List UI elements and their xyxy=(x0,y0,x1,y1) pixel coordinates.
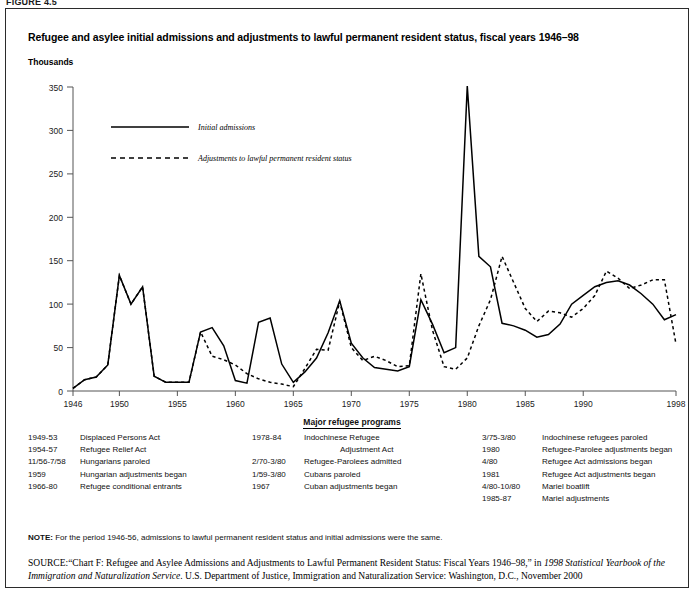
x-tick-1980: 1980 xyxy=(458,399,477,409)
program-period xyxy=(252,444,304,456)
series-line-adjustments xyxy=(73,256,676,388)
source-text-tail: . U.S. Department of Justice, Immigratio… xyxy=(180,571,582,581)
program-period: 2/70-3/80 xyxy=(252,456,304,468)
chart-note: NOTE: For the period 1946-56, admissions… xyxy=(28,533,442,542)
refugee-admissions-line-chart: 350 300 250 200 150 100 50 0 19461950195… xyxy=(26,71,686,411)
major-refugee-programs-table: Major refugee programs 1949-53Displaced … xyxy=(28,417,676,505)
chart-legend: Initial admissions Adjustments to lawful… xyxy=(111,123,352,163)
x-tick-1960: 1960 xyxy=(226,399,245,409)
program-period: 1981 xyxy=(482,469,542,481)
program-label: Indochinese Refugee xyxy=(304,432,482,444)
y-tick-200: 200 xyxy=(49,213,63,223)
program-period: 4/80 xyxy=(482,456,542,468)
program-period: 1978-84 xyxy=(252,432,304,444)
program-period: 11/56-7/58 xyxy=(28,456,80,468)
program-period: 1954-57 xyxy=(28,444,80,456)
x-tick-1946: 1946 xyxy=(64,399,83,409)
source-label: SOURCE: xyxy=(28,558,68,568)
note-label: NOTE: xyxy=(28,533,53,542)
program-label: Refugee Act adjustments began xyxy=(542,469,676,481)
program-period: 1959 xyxy=(28,469,80,481)
program-label: Adjustment Act xyxy=(304,444,482,456)
program-label xyxy=(80,493,252,505)
y-tick-350: 350 xyxy=(49,83,63,93)
x-tick-1985: 1985 xyxy=(516,399,535,409)
program-label: Mariel adjustments xyxy=(542,493,676,505)
program-period: 1/59-3/80 xyxy=(252,469,304,481)
program-period: 1980 xyxy=(482,444,542,456)
series-line-initial-admissions xyxy=(73,86,676,388)
x-tick-1975: 1975 xyxy=(400,399,419,409)
x-tick-1965: 1965 xyxy=(284,399,303,409)
programs-table-heading-text: Major refugee programs xyxy=(303,417,400,429)
program-period: 1966-80 xyxy=(28,481,80,493)
program-label: Refugee Act admissions began xyxy=(542,456,676,468)
program-period: 1967 xyxy=(252,481,304,493)
programs-table-grid: 1949-53Displaced Persons Act1978-84Indoc… xyxy=(28,432,676,505)
x-tick-1955: 1955 xyxy=(168,399,187,409)
program-label: Displaced Persons Act xyxy=(80,432,252,444)
y-axis-ticks xyxy=(67,87,73,391)
program-label: Refugee-Parolees admitted xyxy=(304,456,482,468)
program-period: 4/80-10/80 xyxy=(482,481,542,493)
x-tick-1990: 1990 xyxy=(574,399,593,409)
program-label: Refugee Relief Act xyxy=(80,444,252,456)
note-text: For the period 1946-56, admissions to la… xyxy=(55,533,442,542)
figure-frame: Refugee and asylee initial admissions an… xyxy=(5,8,689,588)
x-tick-1950: 1950 xyxy=(110,399,129,409)
legend-label-adjustments: Adjustments to lawful permanent resident… xyxy=(197,154,352,163)
program-period: 1949-53 xyxy=(28,432,80,444)
program-label: Hungarian adjustments began xyxy=(80,469,252,481)
program-period xyxy=(252,493,304,505)
y-tick-100: 100 xyxy=(49,300,63,310)
program-label: Refugee conditional entrants xyxy=(80,481,252,493)
program-label: Cubans paroled xyxy=(304,469,482,481)
y-tick-300: 300 xyxy=(49,126,63,136)
program-period: 1985-87 xyxy=(482,493,542,505)
chart-plot-area: 350 300 250 200 150 100 50 0 19461950195… xyxy=(26,71,686,411)
program-label: Refugee-Parolee adjustments began xyxy=(542,444,676,456)
program-period: 3/75-3/80 xyxy=(482,432,542,444)
y-axis-tick-labels: 350 300 250 200 150 100 50 0 xyxy=(49,83,63,397)
program-label: Indochinese refugees paroled xyxy=(542,432,676,444)
y-tick-250: 250 xyxy=(49,169,63,179)
x-axis-ticks xyxy=(73,391,676,396)
figure-number: FIGURE 4.5 xyxy=(6,0,57,7)
program-label: Mariel boatlift xyxy=(542,481,676,493)
x-axis-tick-labels: 1946195019551960196519701975198019851990… xyxy=(64,399,686,409)
y-tick-50: 50 xyxy=(54,343,64,353)
x-tick-1998: 1998 xyxy=(667,399,686,409)
program-label xyxy=(304,493,482,505)
legend-label-initial-admissions: Initial admissions xyxy=(197,123,255,132)
program-label: Cuban adjustments began xyxy=(304,481,482,493)
chart-source: SOURCE:“Chart F: Refugee and Asylee Admi… xyxy=(28,557,676,582)
y-tick-0: 0 xyxy=(58,387,63,397)
program-period xyxy=(28,493,80,505)
y-tick-150: 150 xyxy=(49,256,63,266)
program-label: Hungarians paroled xyxy=(80,456,252,468)
page-title: Refugee and asylee initial admissions an… xyxy=(28,31,579,43)
source-text-lead: “Chart F: Refugee and Asylee Admissions … xyxy=(68,558,544,568)
y-axis-unit-label: Thousands xyxy=(28,57,73,67)
programs-table-heading: Major refugee programs xyxy=(28,417,676,432)
x-tick-1970: 1970 xyxy=(342,399,361,409)
